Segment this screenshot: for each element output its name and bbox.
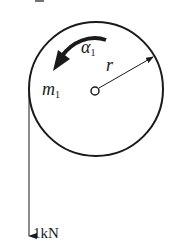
mass-label: m1 xyxy=(42,80,60,100)
center-pin-icon xyxy=(91,87,99,95)
radius-label: r xyxy=(106,56,113,74)
angular-acceleration-label: α1 xyxy=(81,38,95,58)
force-label: 1kN xyxy=(33,226,59,241)
angular-acceleration-arrowhead-icon xyxy=(53,50,70,71)
